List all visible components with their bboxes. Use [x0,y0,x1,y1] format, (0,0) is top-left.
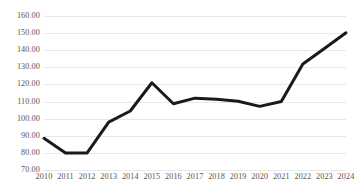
y-axis-tick-label: 100.00 [0,114,40,123]
y-axis-tick-label: 130.00 [0,62,40,71]
x-axis-tick-label: 2019 [230,172,247,182]
x-axis-tick-label: 2018 [208,172,225,182]
x-axis-tick-label: 2022 [294,172,311,182]
x-axis-tick-label: 2013 [100,172,117,182]
x-axis-tick-label: 2016 [165,172,182,182]
y-axis-tick-label: 160.00 [0,11,40,20]
gridline [44,170,346,171]
series-line [44,33,346,153]
line-chart: 160.00150.00140.00130.00120.00110.00100.… [0,0,355,188]
x-axis-tick-label: 2012 [79,172,96,182]
x-axis-tick-label: 2014 [122,172,139,182]
x-axis-tick-label: 2024 [338,172,355,182]
y-axis-tick-label: 80.00 [0,148,40,157]
x-axis-tick-label: 2021 [273,172,290,182]
x-axis-tick-label: 2015 [143,172,160,182]
x-axis-tick-label: 2017 [187,172,204,182]
plot-area [44,16,346,170]
y-axis-tick-label: 150.00 [0,28,40,37]
y-axis-tick-label: 70.00 [0,165,40,174]
x-axis-tick-label: 2011 [57,172,73,182]
x-axis-tick-label: 2010 [36,172,53,182]
x-axis-tick-label: 2020 [251,172,268,182]
x-axis-tick-label: 2023 [316,172,333,182]
y-axis-tick-label: 140.00 [0,45,40,54]
y-axis-tick-label: 90.00 [0,131,40,140]
x-axis: 2010201120122013201420152016201720182019… [44,172,346,186]
series-line-group [44,16,346,170]
y-axis: 160.00150.00140.00130.00120.00110.00100.… [0,0,40,188]
y-axis-tick-label: 110.00 [0,97,40,106]
y-axis-tick-label: 120.00 [0,79,40,88]
